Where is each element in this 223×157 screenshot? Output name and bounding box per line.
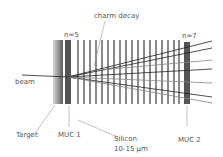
muc2-label: MUC 2 xyxy=(178,136,201,144)
n5-label: n=5 xyxy=(64,31,79,39)
muc1-label: MUC 1 xyxy=(58,131,81,139)
charm-decay-label: charm decay xyxy=(94,12,139,20)
n7-label: n=7 xyxy=(182,32,197,40)
silicon-thickness-label: 10-15 μm xyxy=(114,145,148,153)
muc1-block xyxy=(65,40,71,104)
target-label: Target xyxy=(16,131,38,139)
silicon-label: Silicon xyxy=(114,135,137,143)
beam-label: beam xyxy=(15,78,35,86)
muc2-block xyxy=(184,42,190,104)
target-block xyxy=(53,40,63,104)
particle-tracks xyxy=(22,41,212,103)
